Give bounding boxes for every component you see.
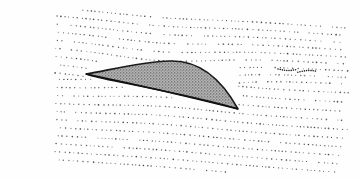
streamline-dot [333, 101, 335, 103]
streamline-dot [243, 36, 244, 37]
streamline-dot [212, 128, 213, 129]
streamline-dot [217, 20, 218, 21]
streamline-dot [86, 145, 87, 146]
streamline-dot [313, 135, 315, 137]
streamline-dot [77, 75, 78, 76]
streamline-dot [222, 59, 223, 60]
streamline-dot [329, 82, 331, 84]
streamline-dot [119, 13, 121, 15]
streamline-dot [325, 101, 326, 102]
streamline-dot [71, 49, 73, 51]
streamline-dot [201, 44, 202, 45]
streamline-dot [203, 136, 205, 138]
streamline-dot [110, 130, 112, 132]
streamline-dot [175, 167, 176, 168]
streamline-dot [335, 34, 337, 36]
streamline-dot [78, 96, 79, 97]
streamline-dot [72, 33, 73, 34]
streamline-dot [224, 155, 225, 156]
streamline-dot [116, 87, 117, 88]
streamline-dot [291, 151, 292, 152]
streamline-dot [132, 131, 133, 132]
streamline-dot [180, 167, 181, 168]
streamline-dot [191, 52, 193, 54]
streamline-dot [166, 17, 167, 18]
streamline-dot [302, 161, 303, 162]
streamline-dot [134, 40, 135, 41]
streamline-dot [307, 118, 308, 119]
streamline-dot [301, 81, 303, 83]
streamline-dot [242, 122, 244, 124]
streamline-dot [183, 116, 185, 118]
streamline-dot [140, 123, 141, 124]
streamline-dot [265, 22, 266, 23]
streamline-dot [304, 24, 305, 25]
streamline-dot [156, 149, 158, 151]
streamline-dot [127, 30, 129, 32]
streamline-dot [233, 138, 235, 140]
streamline-dot [76, 50, 78, 52]
streamline-dot [158, 123, 159, 124]
streamline-dot [227, 163, 229, 165]
streamline-dot [298, 134, 300, 136]
streamline-dot [65, 73, 67, 75]
streamline-dot [289, 160, 290, 161]
streamline-dot [271, 158, 273, 160]
streamline-dot [250, 87, 251, 88]
streamline-dot [244, 67, 245, 68]
streamline-dot [268, 97, 269, 98]
streamline-dot [162, 17, 163, 18]
streamline-dot [313, 33, 314, 34]
streamline-dot [260, 97, 261, 98]
streamline-dot [289, 81, 291, 83]
streamline-dot [113, 96, 114, 97]
streamline-dot [87, 59, 88, 60]
streamline-dot [90, 145, 91, 146]
streamline-dot [300, 75, 302, 77]
streamline-dot [63, 65, 65, 67]
streamline-dot [219, 28, 220, 29]
streamline-dot [252, 157, 253, 158]
streamline-dot [280, 116, 281, 117]
streamline-dot [92, 129, 93, 130]
streamline-dot [223, 43, 225, 45]
streamline-dot [321, 33, 323, 35]
streamline-dot [280, 142, 281, 143]
streamline-dot [85, 87, 86, 88]
streamline-dot [141, 156, 142, 157]
streamline-dot [91, 10, 93, 12]
streamline-dot [146, 114, 147, 115]
streamline-dot [255, 59, 256, 60]
streamline-dot [321, 127, 322, 128]
streamline-dot [191, 35, 192, 36]
streamline-dot [266, 150, 267, 151]
streamline-dot [82, 153, 83, 154]
streamline-dot [194, 143, 195, 144]
streamline-dot [61, 119, 62, 120]
streamline-dot [82, 76, 83, 77]
streamline-dot [147, 105, 148, 106]
streamline-dot [327, 162, 328, 163]
streamline-dot [82, 120, 84, 122]
streamline-dot [259, 123, 261, 125]
streamline-dot [305, 39, 306, 40]
streamline-dot [171, 124, 172, 125]
streamline-dot [234, 20, 235, 21]
streamline-dot [123, 47, 124, 48]
streamline-dot [332, 163, 333, 164]
streamline-dot [69, 103, 71, 105]
streamline-dot [247, 28, 249, 30]
streamline-dot [261, 22, 263, 24]
streamline-dot [265, 115, 267, 117]
streamline-dot [269, 88, 270, 89]
streamline-dot [178, 107, 179, 108]
streamline-dot [77, 66, 78, 67]
streamline-dot [152, 123, 154, 125]
streamline-dot [251, 96, 252, 97]
streamline-dot [278, 45, 280, 47]
streamline-dot [341, 27, 342, 28]
streamline-dot [122, 155, 123, 156]
streamline-dot [282, 125, 283, 126]
streamline-dot [230, 129, 231, 130]
streamline-dot [337, 101, 339, 103]
